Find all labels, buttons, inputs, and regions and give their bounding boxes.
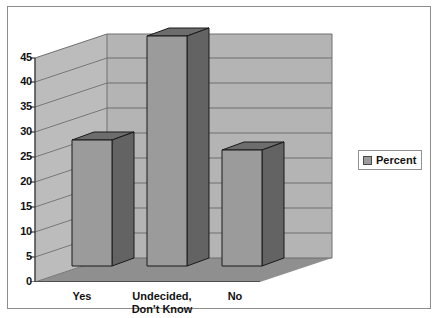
plot-back-wall xyxy=(107,34,332,258)
y-axis-ticks xyxy=(30,58,35,282)
bar-no-side xyxy=(262,142,284,266)
y-tick-label-5: 5 xyxy=(10,251,32,262)
bar-yes[interactable] xyxy=(72,132,134,266)
bar-no-front xyxy=(222,150,262,266)
x-label-yes: Yes xyxy=(47,290,117,303)
bar-undecided[interactable] xyxy=(147,28,209,266)
plot-area xyxy=(17,12,349,282)
y-tick-label-10: 10 xyxy=(10,226,32,237)
y-tick-label-25: 25 xyxy=(10,151,32,162)
legend-label-percent: Percent xyxy=(376,154,416,166)
y-tick-label-15: 15 xyxy=(10,201,32,212)
bar-no[interactable] xyxy=(222,142,284,266)
plot-svg xyxy=(17,12,349,282)
y-tick-label-30: 30 xyxy=(10,126,32,137)
bar-yes-side xyxy=(112,132,134,266)
y-tick-label-0: 0 xyxy=(10,276,32,287)
y-tick-label-35: 35 xyxy=(10,101,32,112)
y-tick-label-40: 40 xyxy=(10,76,32,87)
chart-legend[interactable]: Percent xyxy=(358,150,422,170)
chart-figure: 45 40 35 30 25 20 15 10 5 0 Yes Undecide… xyxy=(0,0,437,318)
x-label-no: No xyxy=(205,290,265,303)
x-label-undecided: Undecided, Don't Know xyxy=(122,290,202,316)
y-tick-label-20: 20 xyxy=(10,176,32,187)
percent-swatch-icon xyxy=(363,156,372,165)
y-tick-label-45: 45 xyxy=(10,52,32,63)
bar-undecided-side xyxy=(187,28,209,266)
bar-yes-front xyxy=(72,140,112,266)
bar-undecided-front xyxy=(147,36,187,266)
